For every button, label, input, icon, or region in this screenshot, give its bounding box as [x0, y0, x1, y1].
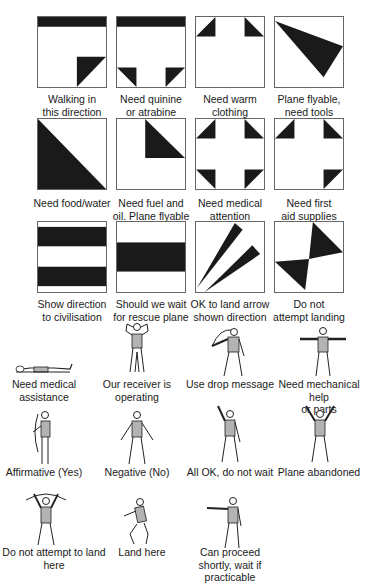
all-ok-figure-icon — [212, 404, 248, 468]
signal-food-water-panel — [37, 118, 107, 190]
signal-plane-flyable-tools-panel — [274, 16, 344, 88]
signal-negative-label: Negative (No) — [87, 466, 187, 479]
signal-drop-message-label: Use drop message — [180, 378, 280, 391]
hands-on-head-figure-icon — [122, 322, 152, 378]
fuel-oil-icon — [117, 119, 185, 189]
signal-plane-abandoned-label: Plane abandoned — [269, 466, 369, 479]
quinine-icon — [117, 17, 185, 87]
plane-abandoned-figure-icon — [302, 404, 338, 468]
do-not-land-icon — [275, 222, 343, 292]
signal-wait-rescue-panel — [116, 221, 186, 293]
crouching-figure-icon — [122, 496, 154, 550]
negative-figure-icon — [119, 410, 155, 470]
signal-plane-flyable-tools-label: Plane flyable, need tools — [259, 93, 359, 118]
signal-first-aid-label: Need first aid supplies — [259, 197, 359, 222]
signal-fuel-oil-panel — [116, 118, 186, 190]
warm-clothing-icon — [196, 17, 264, 87]
signal-affirmative-label: Affirmative (Yes) — [0, 466, 94, 479]
plane-flyable-tools-icon — [275, 17, 343, 87]
cloth-waving-figure-icon — [24, 490, 68, 550]
signal-ok-land-arrow-panel — [195, 221, 265, 293]
landing-arrow-icon — [196, 222, 264, 292]
arms-outstretched-figure-icon — [298, 326, 348, 382]
signal-walking-panel — [37, 16, 107, 88]
direction-civilisation-icon — [38, 222, 106, 292]
signal-medical-assistance-label: Need medical assistance — [0, 378, 94, 403]
drop-message-figure-icon — [210, 326, 254, 382]
signal-receiver-operating-label: Our receiver is operating — [87, 378, 187, 403]
medical-attention-icon — [196, 119, 264, 189]
signal-direction-civilisation-panel — [37, 221, 107, 293]
signal-proceed-shortly-label: Can proceed shortly, wait if practicable — [174, 546, 286, 584]
signal-quinine-panel — [116, 16, 186, 88]
signal-do-not-land-panel — [274, 221, 344, 293]
affirmative-figure-icon — [30, 410, 56, 470]
signal-warm-clothing-panel — [195, 16, 265, 88]
first-aid-icon — [275, 119, 343, 189]
signal-first-aid-panel — [274, 118, 344, 190]
signal-medical-attention-panel — [195, 118, 265, 190]
signal-all-ok-label: All OK, do not wait — [180, 466, 280, 479]
walking-direction-icon — [38, 17, 106, 87]
lying-figure-icon — [14, 360, 74, 380]
signal-do-not-land-label: Do not attempt landing — [259, 298, 359, 323]
food-water-icon — [38, 119, 106, 189]
wait-rescue-icon — [117, 222, 185, 292]
